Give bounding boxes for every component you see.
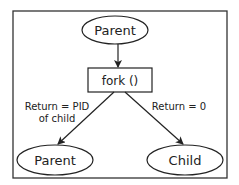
edge-to-parent-label-line1: Return = PID: [25, 101, 90, 112]
node-fork: fork (): [88, 68, 152, 92]
edge-to-child: [125, 92, 183, 144]
fork-diagram: Parent fork () Return = PID of child Ret…: [0, 0, 239, 185]
node-child-label: Child: [169, 153, 202, 168]
node-bottom-parent-label: Parent: [34, 153, 76, 168]
node-top-parent: Parent: [82, 16, 148, 44]
edge-to-parent-label-line2: of child: [39, 113, 76, 124]
node-top-parent-label: Parent: [94, 23, 136, 38]
edge-to-child-label: Return = 0: [152, 101, 206, 112]
node-child: Child: [147, 145, 223, 175]
node-fork-label: fork (): [102, 74, 139, 88]
node-bottom-parent: Parent: [17, 145, 93, 175]
